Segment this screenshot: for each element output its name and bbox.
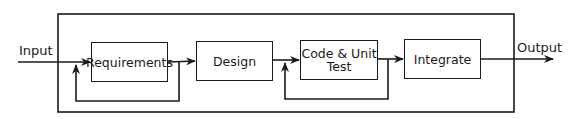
stage-requirements: Requirements [91, 42, 168, 82]
stage-label: Requirements [86, 56, 173, 69]
input-label: Input [19, 44, 53, 58]
stage-label-line2: Test [327, 60, 352, 73]
stage-code-unit-test: Code & Unit Test [300, 40, 378, 80]
stage-design: Design [196, 41, 273, 81]
stage-label: Design [213, 55, 256, 68]
stage-integrate: Integrate [404, 39, 481, 79]
stage-label: Integrate [414, 53, 472, 66]
output-label: Output [517, 41, 562, 55]
